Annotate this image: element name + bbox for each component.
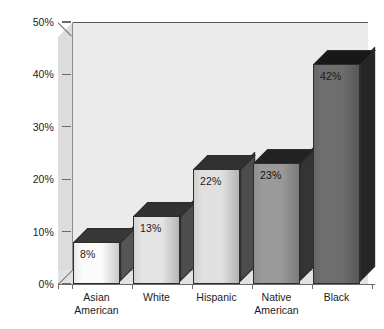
y-axis-tick-label: 30%	[8, 121, 54, 133]
bar-value-label: 13%	[140, 223, 161, 234]
bar-chart: 0%10%20%30%40%50% 8%13%22%23%42% AsianAm…	[0, 0, 384, 329]
bar-column[interactable]: 42%	[313, 64, 360, 284]
x-axis-tick	[312, 284, 313, 289]
bar-value-label: 42%	[320, 71, 341, 82]
bar-value-label: 23%	[260, 170, 281, 181]
x-axis-tick	[58, 284, 59, 289]
bar-column[interactable]: 23%	[253, 163, 300, 284]
x-axis-tick	[252, 284, 253, 289]
x-axis-line	[58, 284, 375, 285]
bar-column[interactable]: 13%	[133, 216, 180, 284]
y-axis-tick	[62, 21, 71, 22]
x-axis-category-label: Black	[292, 291, 382, 304]
y-axis-tick	[62, 74, 71, 75]
bar-front-face	[253, 163, 300, 284]
category-label-line: American	[232, 304, 322, 317]
bar-front-face	[313, 64, 360, 284]
y-axis-tick	[62, 179, 71, 180]
y-axis-tick-label: 20%	[8, 173, 54, 185]
bar-side-face	[360, 47, 377, 284]
bar-column[interactable]: 8%	[73, 242, 120, 284]
y-axis-tick-label: 40%	[8, 68, 54, 80]
category-label-line: Black	[292, 291, 382, 304]
plot-side-wall	[58, 22, 72, 284]
bar-column[interactable]: 22%	[193, 169, 240, 284]
y-axis-tick-label: 50%	[8, 16, 54, 28]
bar-value-label: 22%	[200, 176, 221, 187]
plot-depth-corner-top	[58, 22, 73, 37]
category-label-line: American	[52, 304, 142, 317]
x-axis-tick	[372, 284, 373, 289]
y-axis-tick-label: 0%	[8, 278, 54, 290]
x-axis-tick	[72, 284, 73, 289]
y-axis-tick	[62, 126, 71, 127]
bar-value-label: 8%	[80, 249, 95, 260]
x-axis-tick	[132, 284, 133, 289]
y-axis-tick-label: 10%	[8, 226, 54, 238]
y-axis-tick	[62, 231, 71, 232]
x-axis-tick	[192, 284, 193, 289]
